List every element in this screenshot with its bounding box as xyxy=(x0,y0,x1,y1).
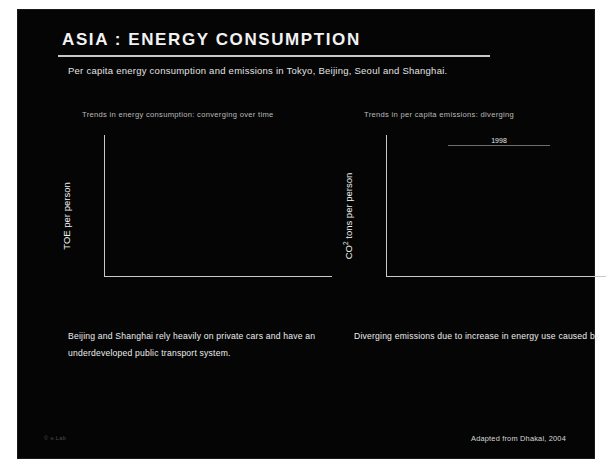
page-subtitle: Per capita energy consumption and emissi… xyxy=(68,65,447,76)
slide-page: ASIA : ENERGY CONSUMPTION Per capita ene… xyxy=(0,0,612,476)
slide: ASIA : ENERGY CONSUMPTION Per capita ene… xyxy=(18,10,594,458)
chart-panel-energy-consumption: Trends in energy consumption: converging… xyxy=(56,110,336,301)
chart-title-emissions: Trends in per capita emissions: divergin… xyxy=(364,110,610,119)
chart-title-energy: Trends in energy consumption: converging… xyxy=(82,110,336,119)
chart-panel-emissions: Trends in per capita emissions: divergin… xyxy=(338,110,610,301)
series-svg-emissions xyxy=(386,135,606,277)
footer-mark: © e.Lab xyxy=(44,435,66,441)
inset-year-label: 1998 xyxy=(448,137,550,146)
footer-source: Adapted from Dhakal, 2004 xyxy=(471,434,566,443)
plot-energy: TOE per person xyxy=(56,131,336,301)
inset-bar-chart-1998: 1998 xyxy=(404,137,550,146)
title-divider xyxy=(58,55,490,57)
series-svg-energy xyxy=(104,135,332,277)
commentary-right-intro: Diverging emissions due to increase in e… xyxy=(354,328,609,345)
page-title: ASIA : ENERGY CONSUMPTION xyxy=(62,30,361,50)
y-axis-label-emissions: CO2 tons per person xyxy=(342,173,354,260)
commentary-left: Beijing and Shanghai rely heavily on pri… xyxy=(68,328,333,362)
commentary-right: Diverging emissions due to increase in e… xyxy=(354,328,609,347)
y-axis-label-energy: TOE per person xyxy=(61,182,72,249)
plot-emissions: CO2 tons per person 1998 xyxy=(338,131,610,301)
plot-area-emissions: 1998 xyxy=(386,135,606,277)
plot-area-energy xyxy=(104,135,332,277)
